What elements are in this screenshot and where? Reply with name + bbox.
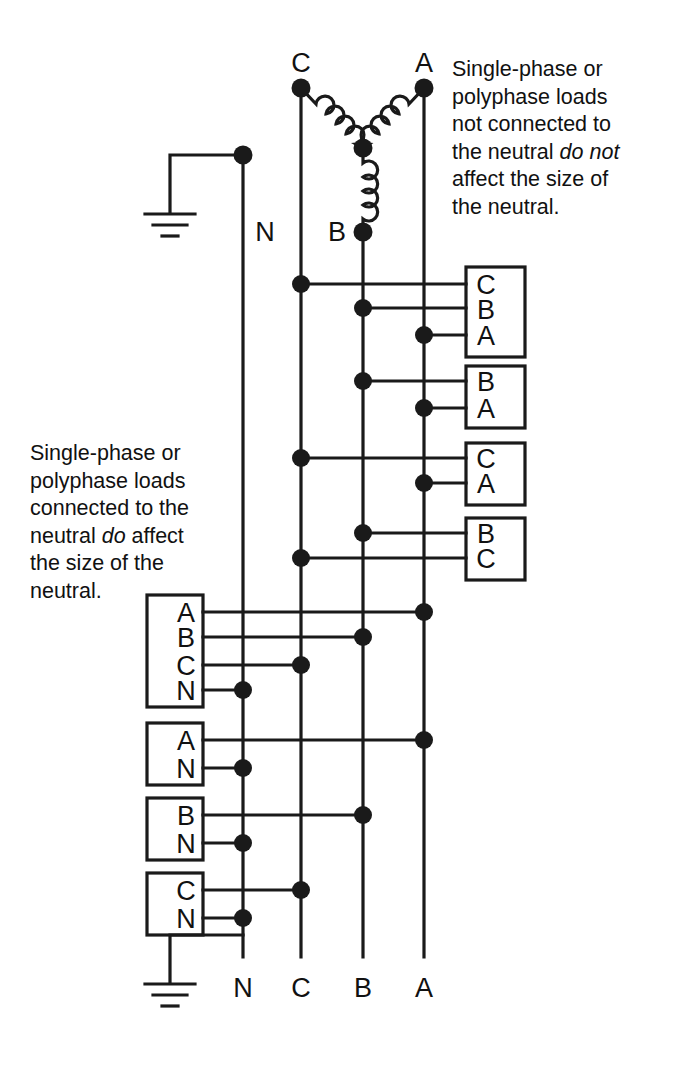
label-bottom-c: C — [291, 973, 311, 1003]
note-bl-line6: neutral. — [30, 578, 230, 606]
load-bc-label-c: C — [476, 544, 496, 574]
note-tr-line1: Single-phase or — [452, 56, 684, 84]
load-bn-label-n: N — [176, 829, 196, 859]
top-ground-icon — [145, 214, 195, 236]
dot-c-458 — [292, 449, 310, 467]
note-bl-line2: polyphase loads — [30, 468, 230, 496]
note-bottom-left: Single-phase or polyphase loads connecte… — [30, 440, 230, 605]
note-bl-line4-post: affect — [126, 524, 184, 548]
load-cn-label-c: C — [176, 876, 196, 906]
dot-b-381 — [354, 372, 372, 390]
load-an-label-n: N — [176, 754, 196, 784]
dot-b-533 — [354, 524, 372, 542]
load-an-label-a: A — [177, 726, 195, 756]
load-abcn-label-b: B — [177, 623, 195, 653]
note-tr-line4-pre: the neutral — [452, 140, 560, 164]
label-source-a: A — [415, 48, 433, 78]
label-bottom-a: A — [415, 973, 433, 1003]
label-bottom-b: B — [354, 973, 372, 1003]
dot-top-ground — [234, 146, 253, 165]
note-tr-emphasis: do not — [560, 140, 620, 164]
dot-source-b — [354, 223, 373, 242]
label-bottom-n: N — [233, 973, 253, 1003]
label-source-c: C — [291, 48, 311, 78]
load-ca-label-a: A — [477, 469, 495, 499]
load-box-ba — [466, 366, 525, 428]
label-bus-neutral-top: N — [255, 217, 275, 247]
junction-dots — [234, 79, 434, 928]
dot-n-843 — [234, 834, 252, 852]
dot-source-star — [354, 139, 373, 158]
top-ground-lead — [170, 155, 243, 212]
label-source-b: B — [328, 217, 346, 247]
dot-b-637 — [354, 628, 372, 646]
bottom-ground-icon — [145, 984, 195, 1006]
note-bl-line3: connected to the — [30, 495, 230, 523]
bottom-ground-lead — [170, 935, 243, 982]
dot-b-308 — [354, 299, 372, 317]
dot-a-335 — [415, 326, 433, 344]
note-bl-emphasis: do — [102, 524, 126, 548]
dot-a-740 — [415, 731, 433, 749]
load-ba-label-a: A — [477, 394, 495, 424]
load-bn-label-b: B — [177, 801, 195, 831]
winding-c — [301, 88, 364, 148]
dot-c-665 — [292, 656, 310, 674]
note-bl-line5: the size of the — [30, 550, 230, 578]
dot-b-815 — [354, 806, 372, 824]
note-bl-line1: Single-phase or — [30, 440, 230, 468]
note-tr-line6: the neutral. — [452, 194, 684, 222]
winding-b — [363, 148, 378, 232]
dot-a-483 — [415, 474, 433, 492]
load-cn-label-n: N — [176, 904, 196, 934]
load-ba-label-b: B — [477, 367, 495, 397]
dot-source-c — [292, 79, 311, 98]
dot-c-284 — [292, 275, 310, 293]
dot-source-a — [415, 79, 434, 98]
note-bl-line4: neutral do affect — [30, 523, 230, 551]
note-bl-line4-pre: neutral — [30, 524, 102, 548]
dot-c-558 — [292, 549, 310, 567]
winding-a — [361, 88, 424, 148]
dot-n-690 — [234, 681, 252, 699]
dot-a-408 — [415, 399, 433, 417]
dot-n-768 — [234, 759, 252, 777]
note-tr-line5: affect the size of — [452, 166, 684, 194]
note-tr-line2: polyphase loads — [452, 84, 684, 112]
dot-a-612 — [415, 603, 433, 621]
dot-c-890 — [292, 881, 310, 899]
dot-n-918 — [234, 909, 252, 927]
note-tr-line4: the neutral do not — [452, 139, 684, 167]
diagram-canvas: C A B N N C B A C B A B A C A B C A B C … — [0, 0, 695, 1065]
load-abcn-label-n: N — [176, 676, 196, 706]
note-tr-line3: not connected to — [452, 111, 684, 139]
note-top-right: Single-phase or polyphase loads not conn… — [452, 56, 684, 221]
load-cba-label-a: A — [477, 321, 495, 351]
